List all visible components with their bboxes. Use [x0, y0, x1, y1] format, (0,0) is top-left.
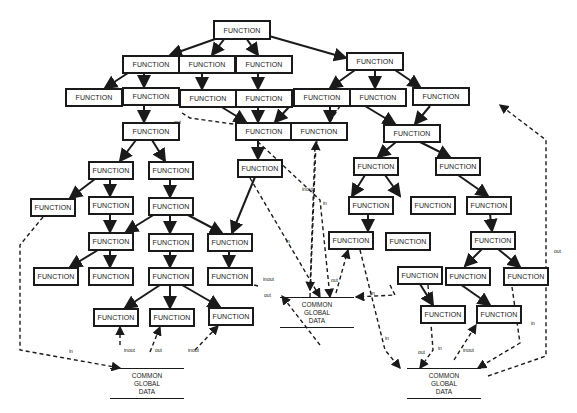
- function-node-j4: FUNCTION: [207, 267, 253, 286]
- edge-label: inout: [124, 347, 135, 353]
- store-label-line: DATA: [280, 317, 354, 325]
- store-bottom-line: [280, 327, 354, 328]
- function-node-f3: FUNCTION: [435, 157, 481, 176]
- function-node-f4: FUNCTION: [348, 196, 394, 215]
- store-label-line: DATA: [407, 388, 481, 396]
- function-node-f5: FUNCTION: [410, 196, 456, 215]
- function-node-e2: FUNCTION: [290, 122, 348, 141]
- edge-label: out: [418, 349, 425, 355]
- edge-label: out: [155, 347, 162, 353]
- function-node-f13: FUNCTION: [420, 305, 466, 324]
- function-node-h1: FUNCTION: [30, 198, 76, 217]
- function-node-b1: FUNCTION: [293, 88, 351, 107]
- store-left: COMMONGLOBALDATA: [110, 368, 184, 396]
- edge-label: inout: [263, 276, 274, 282]
- function-node-f2: FUNCTION: [353, 157, 399, 176]
- function-node-e1: FUNCTION: [235, 122, 293, 141]
- edge-label: inout: [463, 347, 474, 353]
- function-node-g2: FUNCTION: [148, 161, 194, 180]
- store-label-line: COMMON: [407, 372, 481, 380]
- edge-label: in: [323, 200, 327, 206]
- function-node-d1: FUNCTION: [122, 122, 180, 141]
- edge-label: out: [554, 248, 561, 254]
- store-label-line: GLOBAL: [110, 380, 184, 388]
- function-node-k2: FUNCTION: [149, 308, 195, 327]
- edge-label: out: [174, 119, 181, 125]
- store-right: COMMONGLOBALDATA: [407, 368, 481, 396]
- function-node-e3: FUNCTION: [237, 159, 283, 178]
- store-bottom-line: [110, 398, 184, 399]
- edge-label: in: [531, 320, 535, 326]
- store-top-line: [407, 368, 481, 369]
- store-bottom-line: [407, 398, 481, 399]
- edge-label: in: [69, 348, 73, 354]
- function-node-c2: FUNCTION: [122, 87, 180, 106]
- function-node-k3: FUNCTION: [208, 307, 254, 326]
- edge-label: inout: [188, 347, 199, 353]
- store-label-line: COMMON: [280, 301, 354, 309]
- function-node-f6: FUNCTION: [466, 196, 512, 215]
- store-label-line: GLOBAL: [407, 380, 481, 388]
- function-node-f14: FUNCTION: [476, 305, 522, 324]
- edge-label: in: [385, 335, 389, 341]
- store-center: COMMONGLOBALDATA: [280, 297, 354, 325]
- function-node-f1: FUNCTION: [383, 124, 441, 143]
- function-node-f12: FUNCTION: [503, 267, 549, 286]
- function-node-a1: FUNCTION: [122, 55, 180, 74]
- function-node-j3: FUNCTION: [148, 267, 194, 286]
- function-node-i3: FUNCTION: [207, 233, 253, 252]
- store-label-line: DATA: [110, 388, 184, 396]
- function-node-j2: FUNCTION: [88, 267, 134, 286]
- function-node-c1: FUNCTION: [65, 88, 123, 107]
- edge-label: out: [331, 277, 338, 283]
- edge-label: in: [286, 238, 290, 244]
- edge-label: in: [438, 345, 442, 351]
- function-node-b2: FUNCTION: [349, 88, 407, 107]
- function-node-f10: FUNCTION: [397, 266, 443, 285]
- store-label-line: GLOBAL: [280, 309, 354, 317]
- function-node-h2: FUNCTION: [88, 196, 134, 215]
- function-node-f7: FUNCTION: [328, 231, 374, 250]
- edge-label: out: [264, 292, 271, 298]
- function-node-h3: FUNCTION: [148, 197, 194, 216]
- edge-label: inout: [302, 186, 313, 192]
- function-node-f9: FUNCTION: [470, 231, 516, 250]
- function-node-k1: FUNCTION: [93, 308, 139, 327]
- function-node-c3: FUNCTION: [179, 89, 237, 108]
- store-top-line: [110, 368, 184, 369]
- function-node-a3: FUNCTION: [235, 55, 293, 74]
- store-top-line: [280, 297, 354, 298]
- function-node-j1: FUNCTION: [33, 267, 79, 286]
- function-node-c4: FUNCTION: [235, 89, 293, 108]
- function-node-b0: FUNCTION: [346, 52, 404, 71]
- function-node-i2: FUNCTION: [148, 233, 194, 252]
- function-node-i1: FUNCTION: [88, 232, 134, 251]
- edge-label: in: [371, 290, 375, 296]
- store-label-line: COMMON: [110, 372, 184, 380]
- function-node-b3: FUNCTION: [412, 87, 470, 106]
- function-node-f11: FUNCTION: [445, 267, 491, 286]
- function-node-root: FUNCTION: [213, 20, 271, 40]
- function-node-f8: FUNCTION: [385, 232, 431, 251]
- function-node-a2: FUNCTION: [178, 55, 236, 74]
- structure-chart-diagram: FUNCTIONFUNCTIONFUNCTIONFUNCTIONFUNCTION…: [0, 0, 577, 413]
- function-node-g1: FUNCTION: [88, 161, 134, 180]
